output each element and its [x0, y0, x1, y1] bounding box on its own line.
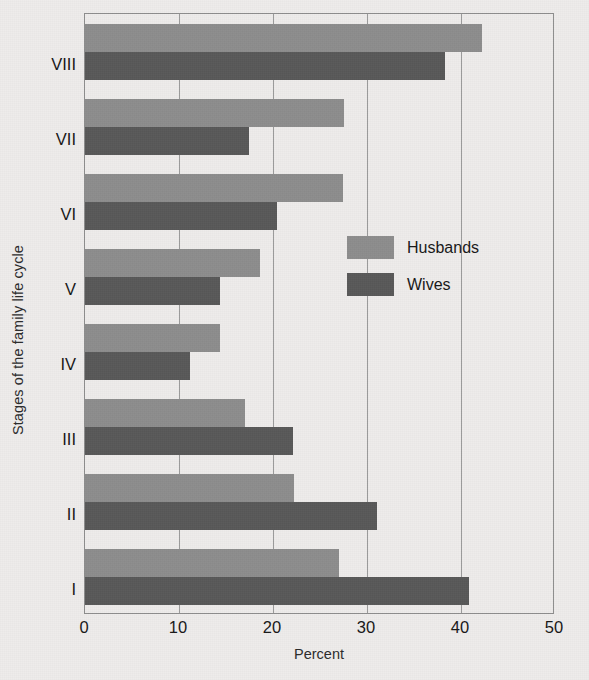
bar-wives-V [85, 277, 220, 305]
legend-item-husbands: Husbands [347, 236, 479, 259]
y-tick-label-V: V [6, 279, 76, 298]
legend-item-wives: Wives [347, 273, 479, 296]
gridline-40 [461, 14, 462, 613]
bar-wives-IV [85, 352, 190, 380]
bar-husbands-IV [85, 324, 220, 352]
plot-area [84, 13, 554, 614]
bar-husbands-I [85, 549, 339, 577]
bar-husbands-III [85, 399, 245, 427]
bar-husbands-VII [85, 99, 344, 127]
x-tick-label-50: 50 [545, 618, 563, 637]
y-tick-label-IV: IV [6, 355, 76, 374]
x-axis-title: Percent [84, 646, 554, 662]
x-tick-label-20: 20 [263, 618, 281, 637]
bar-wives-VIII [85, 52, 445, 80]
bar-husbands-V [85, 249, 260, 277]
bar-husbands-VI [85, 174, 343, 202]
legend-swatch-wives [347, 273, 394, 296]
x-tick-label-40: 40 [451, 618, 469, 637]
bar-wives-II [85, 502, 377, 530]
y-tick-label-VIII: VIII [6, 54, 76, 73]
legend-swatch-husbands [347, 236, 394, 259]
bar-wives-VII [85, 127, 249, 155]
x-tick-label-30: 30 [357, 618, 375, 637]
bar-wives-I [85, 577, 469, 605]
y-axis-title: Stages of the family life cycle [0, 0, 36, 680]
legend-label-wives: Wives [407, 276, 451, 294]
x-tick-label-10: 10 [169, 618, 187, 637]
y-tick-label-II: II [6, 505, 76, 524]
y-tick-label-I: I [6, 580, 76, 599]
y-tick-label-VI: VI [6, 204, 76, 223]
y-tick-label-VII: VII [6, 129, 76, 148]
chart-figure: Stages of the family life cycle VIIIVIIV… [0, 0, 589, 680]
bar-husbands-VIII [85, 24, 482, 52]
bar-wives-VI [85, 202, 277, 230]
bar-husbands-II [85, 474, 294, 502]
legend: Husbands Wives [347, 236, 479, 310]
x-axis-ticks: 01020304050 [84, 618, 554, 642]
x-tick-label-0: 0 [79, 618, 88, 637]
y-tick-label-III: III [6, 430, 76, 449]
bar-wives-III [85, 427, 293, 455]
legend-label-husbands: Husbands [407, 239, 479, 257]
